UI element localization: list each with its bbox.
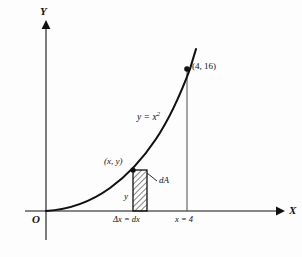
strip-width-label: Δx = dx [113,215,140,224]
generic-point-marker [130,167,135,172]
y-axis-arrowhead [42,20,51,29]
curve-equation-base: y = x [137,112,157,122]
right-boundary-label: x = 4 [175,215,193,224]
x-axis-arrowhead [276,207,285,216]
area-element-strip [133,170,147,211]
diagram-canvas [0,0,302,257]
da-leader-line [147,173,157,181]
x-axis-label: X [289,205,296,216]
strip-height-label: y [124,192,128,201]
curve-equation-exponent: 2 [157,110,161,118]
y-axis-label: Y [40,6,47,17]
endpoint-marker [184,66,190,72]
parabola-curve [46,49,196,211]
endpoint-coordinate-label: (4, 16) [192,62,216,71]
area-element-label: dA [159,176,169,185]
curve-equation-label: y = x2 [137,111,160,123]
parabola-area-diagram: Y X O y = x2 (4, 16) (x, y) dA y Δx = dx… [0,0,302,257]
generic-point-label: (x, y) [104,157,122,166]
origin-label: O [32,214,40,225]
